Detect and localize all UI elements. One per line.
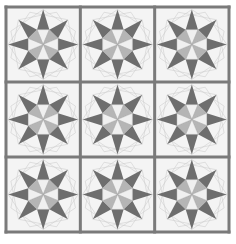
sashing-horizontal [5,156,231,159]
quilt-pattern [0,0,236,244]
sashing-vertical [228,6,231,234]
sashing-horizontal [5,231,231,234]
sashing-horizontal [5,6,231,9]
sashing-horizontal [5,81,231,84]
sashing-vertical [79,6,82,234]
sashing-vertical [153,6,156,234]
sashing-vertical [5,6,8,234]
